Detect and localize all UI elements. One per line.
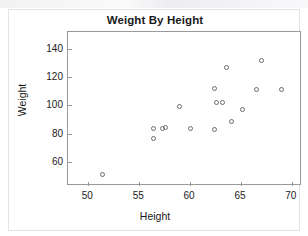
scatter-point [163,125,168,130]
chart-title: Weight By Height [9,14,301,26]
x-axis-tick-labels: 5055606570 [67,188,301,204]
scatter-point [151,126,156,131]
scatter-point [188,126,193,131]
scatter-point [212,127,217,132]
y-tick-label: 140 [33,42,63,53]
scatter-point [220,100,225,105]
scatter-point [151,136,156,141]
x-tick-label: 50 [72,190,102,201]
scatter-points-layer [68,32,300,184]
scatter-point [212,86,217,91]
scatter-point [229,119,234,124]
y-tick-label: 60 [33,155,63,166]
plot-area [67,31,301,185]
x-tick-label: 65 [225,190,255,201]
scatter-point [214,100,219,105]
y-tick-label: 100 [33,99,63,110]
x-tick-label: 55 [123,190,153,201]
y-axis-tick-labels: 6080100120140 [27,31,63,185]
screenshot-root: Weight By Height Weight Height 608010012… [0,0,308,236]
x-tick-label: 70 [276,190,306,201]
x-tick-label: 60 [174,190,204,201]
scatter-point [100,172,105,177]
y-tick-label: 120 [33,71,63,82]
chart-card: Weight By Height Weight Height 608010012… [8,9,300,231]
scatter-point [240,107,245,112]
top-edge-artifact [0,0,308,8]
scatter-point [224,65,229,70]
scatter-point [279,87,284,92]
y-tick-label: 80 [33,127,63,138]
scatter-point [254,87,259,92]
scatter-point [177,104,182,109]
x-axis-label: Height [9,210,301,222]
scatter-point [259,58,264,63]
